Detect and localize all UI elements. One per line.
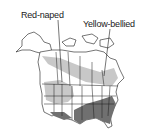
north-america-map	[0, 0, 148, 136]
arctic-islands	[62, 34, 114, 48]
